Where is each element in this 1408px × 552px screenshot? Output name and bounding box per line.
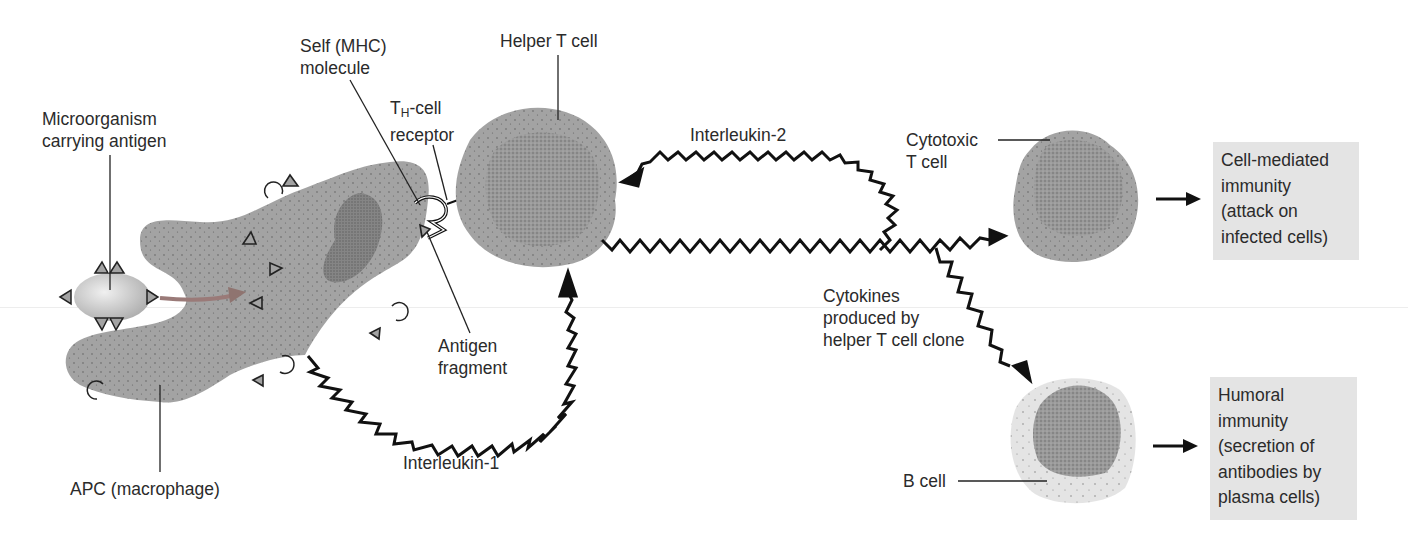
label-b-cell: B cell <box>903 470 946 492</box>
cytokine-signal-to-cytotoxic <box>602 230 1005 252</box>
label-th-cell-receptor: TH-cell receptor <box>390 97 454 146</box>
outcome-arrows <box>1153 192 1201 453</box>
label-microorganism: Microorganism carrying antigen <box>42 108 167 152</box>
label-interleukin-2: Interleukin-2 <box>690 124 786 146</box>
label-cytotoxic-t-cell: Cytotoxic T cell <box>906 129 978 173</box>
label-apc-macrophage: APC (macrophage) <box>70 478 220 500</box>
b-cell <box>1011 378 1136 503</box>
immune-response-diagram <box>0 0 1408 552</box>
label-interleukin-1: Interleukin-1 <box>403 452 499 474</box>
label-antigen-fragment: Antigen fragment <box>438 335 507 379</box>
outcome-cell-mediated-immunity: Cell-mediated immunity (attack on infect… <box>1213 142 1359 260</box>
interleukin-2-signal <box>622 152 897 250</box>
outcome-humoral-immunity: Humoral immunity (secretion of antibodie… <box>1210 377 1357 520</box>
label-helper-t-cell: Helper T cell <box>500 30 598 52</box>
helper-t-cell <box>456 108 617 267</box>
microorganism <box>60 262 158 330</box>
label-self-mhc: Self (MHC) molecule <box>300 35 387 79</box>
label-cytokines: Cytokines produced by helper T cell clon… <box>823 285 964 351</box>
cytotoxic-t-cell <box>1013 131 1138 263</box>
